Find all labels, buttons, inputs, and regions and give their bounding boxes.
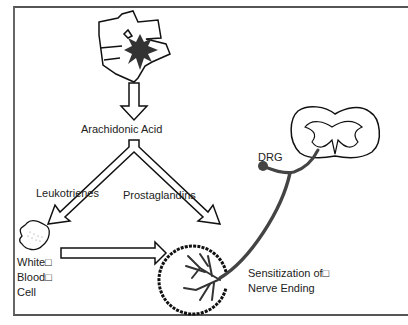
label-wbc-1: White□ xyxy=(17,255,52,270)
nerve-fiber-icon xyxy=(220,150,318,278)
right-arrow-icon xyxy=(61,242,166,264)
down-arrow-icon xyxy=(121,83,147,120)
label-arachidonic-acid: Arachidonic Acid xyxy=(81,122,162,137)
label-prostaglandins: Prostaglandins xyxy=(123,188,196,203)
nerve-ending-icon xyxy=(159,246,226,314)
label-drg: DRG xyxy=(258,150,282,165)
white-blood-cell-icon xyxy=(20,221,50,250)
split-arrows-icon xyxy=(48,140,220,224)
label-wbc-2: Blood□ xyxy=(17,270,52,285)
label-leukotrienes: Leukotrienes xyxy=(36,186,99,201)
label-wbc-3: Cell xyxy=(17,285,36,300)
label-sensitization-2: Nerve Ending xyxy=(248,281,315,296)
label-sensitization-1: Sensitization of□ xyxy=(248,266,329,281)
spinal-cord-icon xyxy=(291,107,379,158)
